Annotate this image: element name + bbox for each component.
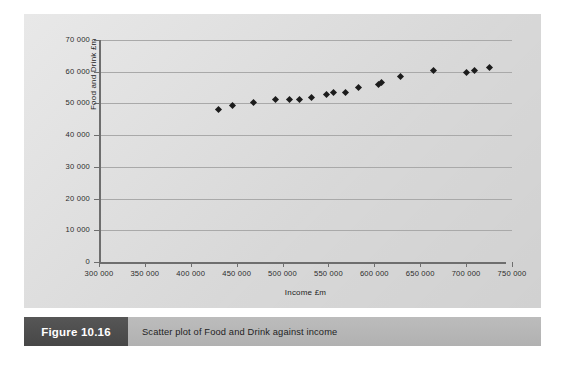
y-axis-tick-label: 60 000 — [66, 67, 90, 76]
scatter-point — [296, 96, 303, 103]
gridline — [99, 103, 512, 104]
scatter-point — [286, 96, 293, 103]
gridline — [99, 40, 512, 41]
y-axis-tick-label: 70 000 — [66, 35, 90, 44]
figure-number-box: Figure 10.16 — [24, 317, 128, 346]
figure-caption-bar: Figure 10.16 Scatter plot of Food and Dr… — [24, 317, 541, 346]
scatter-point — [272, 96, 279, 103]
scatter-point — [463, 69, 470, 76]
plot-area: 010 00020 00030 00040 00050 00060 00070 … — [99, 40, 512, 262]
figure-number-label: Figure 10.16 — [41, 326, 111, 338]
y-axis-title: Food and Drink £m — [89, 39, 98, 110]
scatter-point — [486, 64, 493, 71]
scatter-point — [215, 106, 222, 113]
scatter-point — [355, 84, 362, 91]
scatter-point — [430, 67, 437, 74]
y-axis-line — [99, 40, 101, 263]
y-axis-tick-label: 50 000 — [66, 98, 90, 107]
scatter-point — [250, 99, 257, 106]
scatter-point — [378, 79, 385, 86]
gridline — [99, 72, 512, 73]
x-axis-title: Income £m — [99, 288, 512, 297]
y-axis-tick-label: 0 — [86, 257, 90, 266]
gridline — [99, 135, 512, 136]
x-axis-tick — [512, 262, 513, 267]
x-axis-line — [99, 262, 506, 264]
scatter-point — [396, 73, 403, 80]
y-axis-tick-label: 40 000 — [66, 130, 90, 139]
gridline — [99, 167, 512, 168]
gridline — [99, 199, 512, 200]
y-axis-tick-label: 10 000 — [66, 225, 90, 234]
x-axis-tick-label: 750 000 — [482, 269, 542, 278]
figure-caption-text: Scatter plot of Food and Drink against i… — [142, 317, 337, 346]
scatter-point — [342, 89, 349, 96]
y-axis-tick-label: 30 000 — [66, 162, 90, 171]
y-axis-tick-label: 20 000 — [66, 194, 90, 203]
gridline — [99, 230, 512, 231]
scatter-point — [308, 94, 315, 101]
figure-container: 010 00020 00030 00040 00050 00060 00070 … — [0, 0, 566, 371]
scatter-point — [330, 89, 337, 96]
chart-panel: 010 00020 00030 00040 00050 00060 00070 … — [24, 14, 541, 308]
